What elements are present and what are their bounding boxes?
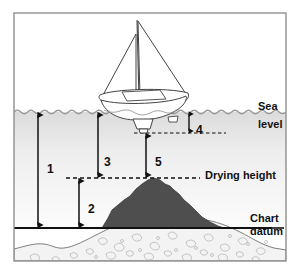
callout-1: 1 [47, 163, 54, 175]
sea-level-label-line1: Sea [258, 100, 278, 112]
sea-level-label: Sea level [258, 101, 296, 131]
drying-height-label: Drying height [205, 170, 276, 182]
diagram-canvas: Sea level Drying height Chart datum 1 2 … [0, 0, 300, 274]
callout-4: 4 [196, 124, 203, 136]
sea-level-label-line2: level [258, 119, 296, 131]
callout-3: 3 [104, 156, 111, 168]
chart-datum-label-line2: datum [250, 226, 296, 238]
chart-datum-label: Chart datum [250, 213, 296, 238]
callout-2: 2 [88, 203, 95, 215]
chart-datum-label-line1: Chart [250, 212, 279, 224]
callout-5: 5 [155, 156, 162, 168]
